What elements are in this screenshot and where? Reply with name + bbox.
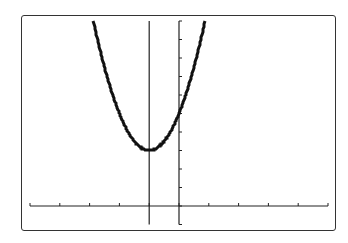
- graph-plot: [0, 0, 348, 243]
- axes: [30, 21, 328, 225]
